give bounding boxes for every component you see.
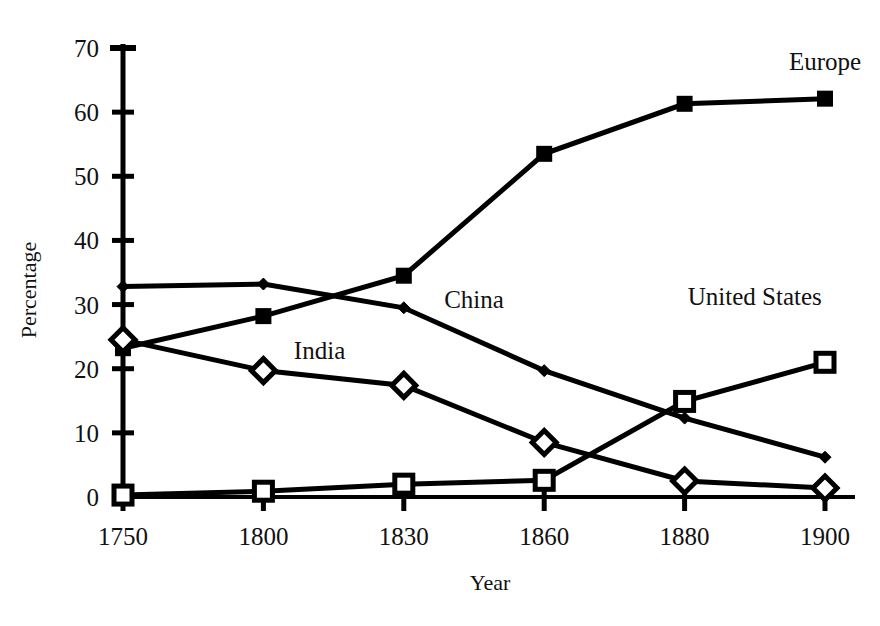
y-axis-tick-label: 10 (74, 420, 99, 447)
series-label-india: India (294, 337, 345, 364)
series-india (111, 328, 837, 500)
data-point-marker (819, 451, 831, 463)
data-point-marker (392, 373, 416, 397)
line-chart: 010203040506070 175018001830186018801900… (0, 0, 880, 626)
x-axis-tick-label: 1880 (660, 523, 710, 550)
data-point-marker (818, 92, 832, 106)
data-point-marker (678, 97, 692, 111)
data-point-marker (679, 412, 691, 424)
y-axis-tick-label: 60 (74, 99, 99, 126)
y-axis-tick-label: 30 (74, 292, 99, 319)
data-point-marker (816, 353, 834, 371)
x-axis-tick-label: 1750 (98, 523, 148, 550)
series-europe (116, 92, 832, 356)
x-axis-tick-label: 1900 (800, 523, 850, 550)
data-point-marker (254, 482, 272, 500)
data-point-marker (532, 430, 556, 454)
data-point-marker (117, 281, 129, 293)
y-axis-tick-label: 70 (74, 35, 99, 62)
y-axis-tick-label: 20 (74, 356, 99, 383)
series-label-europe: Europe (789, 48, 861, 75)
y-axis-tick-labels: 010203040506070 (74, 35, 99, 511)
x-axis-title: Year (470, 570, 511, 595)
data-point-marker (251, 359, 275, 383)
series-label-united-states: United States (688, 283, 822, 310)
x-axis-tick-label: 1860 (519, 523, 569, 550)
series-annotations: EuropeChinaIndiaUnited States (294, 48, 861, 364)
series-label-china: China (444, 286, 504, 313)
data-point-marker (256, 309, 270, 323)
x-axis-tick-labels: 175018001830186018801900 (98, 523, 850, 550)
data-point-marker (397, 269, 411, 283)
chart-container: 010203040506070 175018001830186018801900… (0, 0, 880, 626)
data-point-marker (395, 475, 413, 493)
data-point-marker (535, 471, 553, 489)
data-point-marker (676, 392, 694, 410)
series-line (123, 340, 825, 488)
y-axis-title: Percentage (16, 242, 41, 339)
y-axis-tick-label: 0 (87, 484, 100, 511)
data-point-marker (537, 147, 551, 161)
y-axis-tick-label: 50 (74, 163, 99, 190)
data-point-marker (673, 469, 697, 493)
x-axis-tick-label: 1800 (238, 523, 288, 550)
data-point-marker (114, 486, 132, 504)
y-axis-tick-label: 40 (74, 227, 99, 254)
x-axis-tick-label: 1830 (379, 523, 429, 550)
data-point-marker (257, 278, 269, 290)
